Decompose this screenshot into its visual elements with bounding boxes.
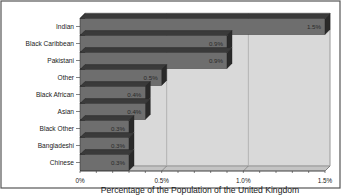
category-label: Chinese — [50, 159, 75, 166]
x-tick-label: 1.0% — [236, 177, 251, 184]
bar-top — [80, 82, 150, 87]
bar-top — [80, 65, 167, 70]
bar-chart: 1.5%0.9%0.9%0.5%0.4%0.4%0.3%0.3%0.3% Ind… — [0, 0, 343, 195]
bar-top — [80, 14, 330, 19]
x-tick-label: 0% — [75, 177, 85, 184]
value-label: 0.9% — [209, 57, 224, 64]
bar-top — [80, 48, 232, 53]
value-label: 0.9% — [209, 40, 224, 47]
bar-top — [80, 99, 150, 104]
category-label: Indian — [56, 23, 74, 30]
bar-top — [80, 150, 134, 155]
x-tick-label: 1.5% — [318, 177, 333, 184]
bar-top — [80, 31, 232, 36]
x-tick-label: 0.5% — [154, 177, 169, 184]
bar-group: 0.3% — [80, 150, 134, 171]
x-axis-title: Percentage of the Population of the Unit… — [101, 185, 299, 195]
category-label: Bangladeshi — [38, 142, 75, 150]
value-label: 0.4% — [127, 91, 142, 98]
value-label: 1.5% — [307, 23, 322, 30]
value-label: 0.3% — [111, 125, 126, 132]
bar-top — [80, 133, 134, 138]
category-label: Black Other — [40, 125, 75, 132]
bar-top — [80, 116, 134, 121]
category-label: Other — [58, 74, 75, 81]
category-label: Pakistani — [47, 57, 74, 64]
value-label: 0.5% — [144, 74, 159, 81]
value-label: 0.4% — [127, 108, 142, 115]
category-label: Asian — [58, 108, 75, 115]
category-label: Black African — [36, 91, 74, 98]
category-label: Black Caribbean — [26, 40, 75, 47]
value-label: 0.3% — [111, 159, 126, 166]
value-label: 0.3% — [111, 142, 126, 149]
